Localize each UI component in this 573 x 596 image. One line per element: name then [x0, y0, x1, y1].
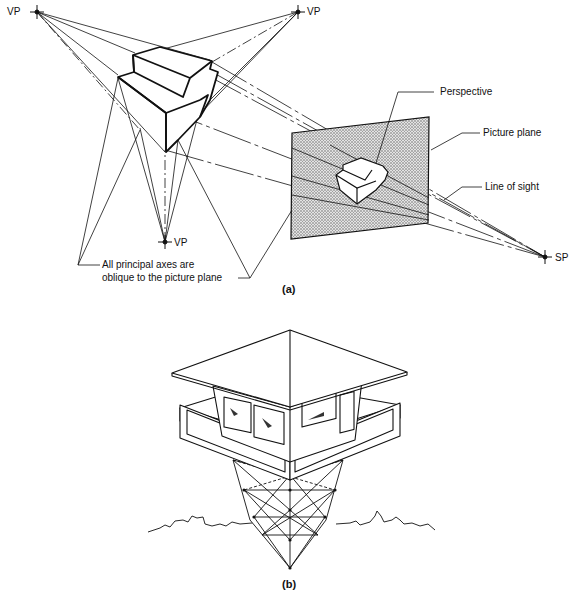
- vp-label-bottom: VP: [174, 237, 187, 249]
- roof: [172, 330, 407, 410]
- cabin-window: [224, 397, 251, 433]
- cabin-door: [340, 392, 354, 433]
- perspective-label: Perspective: [440, 86, 492, 98]
- sp-label: SP: [555, 252, 568, 264]
- vp-label-top-left: VP: [7, 6, 20, 18]
- picture-plane-label: Picture plane: [483, 127, 541, 139]
- caption-b: (b): [282, 578, 296, 590]
- caption-a: (a): [282, 283, 295, 295]
- vp-label-top-right: VP: [307, 6, 320, 18]
- axes-note-line1: All principal axes are: [102, 259, 194, 271]
- figure-b-tower: [148, 330, 435, 570]
- axes-note-line2: oblique to the picture plane: [102, 272, 222, 284]
- line-of-sight-label: Line of sight: [485, 181, 539, 193]
- picture-plane: [291, 117, 429, 239]
- sp-marker: [538, 250, 552, 264]
- vp-marker-bottom: [158, 235, 172, 249]
- block-object: [118, 47, 218, 152]
